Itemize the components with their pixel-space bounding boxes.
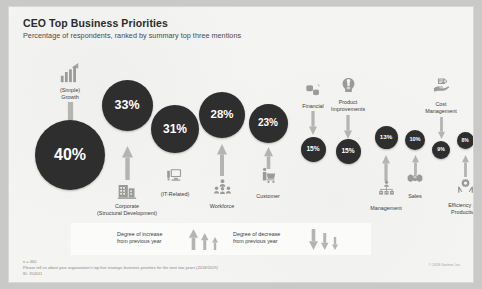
office-building-icon: [117, 180, 137, 200]
coins-icon: [305, 82, 321, 98]
legend-arrow-down-3: [332, 236, 338, 254]
hands-gear-icon: [457, 177, 474, 194]
category-label-management: Management: [361, 205, 411, 212]
legend-arrow-up-3: [212, 236, 218, 254]
org-chart-icon: [378, 180, 395, 197]
category-label-corporate: Corporate (Structural Development): [88, 203, 166, 217]
handshake-icon: [407, 170, 423, 186]
page-title: CEO Top Business Priorities: [23, 17, 168, 29]
bubble-financial: 15%: [301, 137, 326, 162]
legend-arrow-up-2: [201, 233, 209, 254]
category-label-cost: Cost Management: [417, 101, 465, 115]
bubble-customer: 23%: [249, 104, 288, 143]
trend-arrow-increase-workforce: [217, 144, 227, 176]
category-label-growth: (Simple) Growth: [40, 87, 100, 101]
bubble-corporate: 33%: [102, 80, 153, 131]
category-label-efficiency: Efficiency and Productivity: [439, 202, 474, 216]
bubble-cost: 9%: [432, 141, 450, 159]
bar-chart-growth-icon: [59, 62, 81, 84]
trend-arrow-decrease-product: [344, 115, 352, 139]
category-label-sales: Sales: [395, 193, 435, 200]
hand-money-icon: [433, 77, 450, 94]
legend-arrow-up-1: [189, 229, 198, 254]
bubble-chart: (Simple) Growth40% Corporate (Structural…: [9, 45, 474, 225]
bubble-management: 13%: [375, 126, 398, 149]
category-label-workforce: Workforce: [195, 203, 249, 210]
people-group-icon: [213, 178, 232, 197]
category-label-product: Product Improvements: [323, 99, 373, 113]
legend-decrease-arrows: [309, 229, 338, 254]
legend-arrow-down-2: [321, 233, 329, 254]
bubble-it: 31%: [151, 105, 199, 153]
trend-arrow-decrease-financial: [309, 111, 317, 135]
lightbulb-head-icon: [340, 77, 357, 94]
shopping-cart-icon: [260, 167, 277, 184]
bubble-sales: 10%: [405, 130, 425, 150]
page-subtitle: Percentage of respondents, ranked by sum…: [23, 31, 241, 40]
trend-arrow-increase-efficiency: [462, 155, 469, 177]
trend-arrow-decrease-cost: [438, 117, 445, 139]
trend-arrow-increase-corporate: [122, 146, 133, 180]
computer-icon: [166, 166, 185, 185]
trend-arrow-increase-management: [382, 155, 390, 181]
footer-notes: n = 460 Please tell us about your organi…: [23, 259, 218, 278]
bubble-workforce: 28%: [199, 92, 245, 138]
chart-legend: Degree of increase from previous year De…: [71, 223, 371, 255]
legend-increase-arrows: [189, 229, 218, 254]
bubble-efficiency: 8%: [457, 132, 474, 149]
legend-increase-label: Degree of increase from previous year: [117, 231, 163, 245]
legend-arrow-down-1: [309, 229, 318, 254]
category-label-it: (IT-Related): [150, 191, 200, 198]
legend-decrease-label: Degree of decrease from previous year: [233, 231, 280, 245]
category-label-customer: Customer: [243, 193, 293, 200]
infographic-card: CEO Top Business Priorities Percentage o…: [8, 6, 474, 283]
copyright-notice: © 2018 Gartner, Inc.: [429, 263, 461, 267]
bubble-product: 15%: [336, 139, 361, 164]
bubble-growth: 40%: [35, 120, 105, 190]
